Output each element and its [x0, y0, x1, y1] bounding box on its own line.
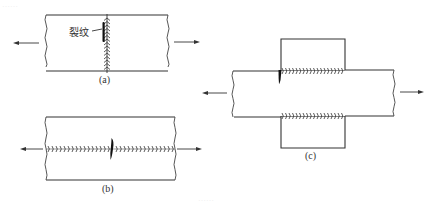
panel-b-label: (b): [102, 183, 114, 194]
weld-c-top-marks: [282, 68, 343, 74]
plate-b-left-break: [45, 117, 47, 180]
weld-c-bottom-marks: [282, 113, 343, 119]
arrow-c-left-head: [202, 91, 208, 95]
crack-label-leader: [92, 29, 102, 31]
panel-c-label: (c): [305, 150, 316, 161]
crack-c: [279, 70, 282, 84]
crack-a: [103, 22, 105, 42]
arrow-b-right-head: [196, 147, 202, 151]
cover-plate-bottom: [281, 116, 345, 148]
arrow-b-left-head: [20, 147, 26, 151]
panel-a: [13, 14, 200, 73]
plate-b-right-break: [174, 117, 176, 180]
plate-a-right-break: [167, 15, 169, 67]
main-plate-left-break: [232, 71, 234, 117]
panel-a-label: (a): [99, 74, 110, 85]
panel-b: [20, 117, 202, 180]
arrow-a-left-head: [13, 41, 19, 45]
main-plate-right-break: [393, 70, 395, 116]
plate-a-left-break: [45, 15, 47, 67]
arrow-a-right-head: [194, 40, 200, 44]
cover-plate-top: [281, 39, 345, 70]
panel-c: [202, 39, 424, 148]
crack-label: 裂纹: [69, 24, 89, 39]
weld-crack-diagram: [0, 0, 437, 205]
arrow-c-right-head: [418, 90, 424, 94]
